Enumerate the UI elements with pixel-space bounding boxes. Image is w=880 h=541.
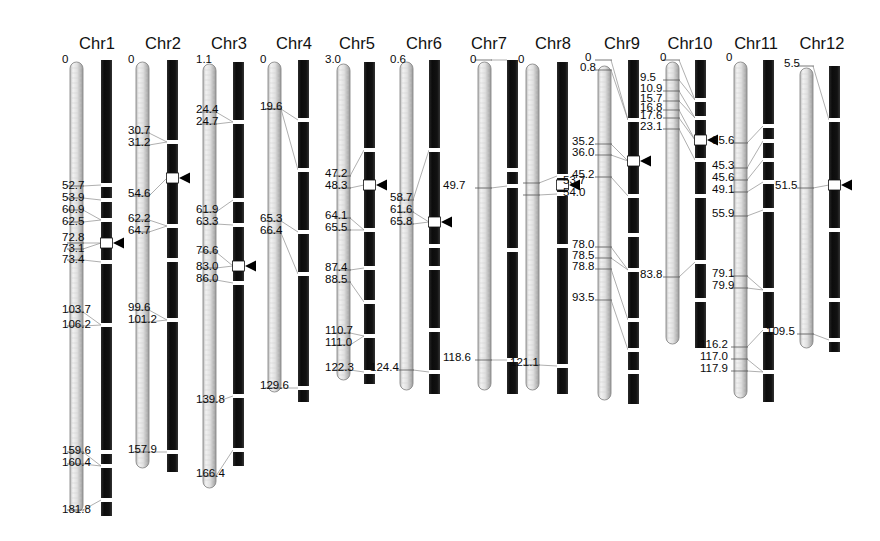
chromosome-band: [101, 198, 112, 202]
chromosome-band: [829, 298, 840, 302]
position-label: 23.1: [640, 121, 662, 133]
chromosome-band: [364, 148, 375, 152]
locus-connector-line: [539, 365, 557, 366]
locus-connector-line: [216, 112, 233, 122]
chromosome-band: [233, 394, 244, 398]
position-label: 93.5: [572, 292, 594, 304]
chromosome-title-chr11: Chr11: [734, 34, 778, 53]
chromosome-band: [507, 248, 518, 252]
chromosome-band: [429, 244, 440, 248]
chromosome-band: [101, 498, 112, 502]
position-label: 99.6: [128, 302, 150, 314]
locus-connector-line: [611, 269, 628, 320]
position-label: 117.9: [700, 363, 728, 375]
position-label: 118.6: [443, 352, 471, 364]
centromere-marker-icon: [841, 180, 852, 191]
chromosome-band: [557, 244, 568, 248]
chromosome-band: [364, 228, 375, 232]
chromosome-title-chr2: Chr2: [145, 34, 181, 53]
position-label: 0: [660, 52, 666, 64]
position-label: 55.9: [712, 208, 734, 220]
position-label: 66.4: [260, 225, 282, 237]
position-label: 64.7: [128, 225, 150, 237]
physical-chromosome-bar: [829, 66, 840, 352]
position-label: 65.3: [260, 213, 282, 225]
position-label: 78.8: [572, 261, 594, 273]
genetic-linkage-bar: [734, 62, 747, 398]
position-label: 61.6: [390, 204, 412, 216]
chromosome-map-svg: [0, 0, 880, 541]
position-label: 62.2: [128, 213, 150, 225]
chromosome-band: [763, 139, 774, 143]
position-label: 79.9: [712, 280, 734, 292]
position-label: 83.8: [640, 269, 662, 281]
locus-connector-line: [679, 262, 695, 277]
position-label: 117.0: [700, 351, 728, 363]
chromosome-band: [298, 272, 309, 276]
chromosome-band: [298, 118, 309, 122]
position-label: 111.0: [325, 337, 352, 349]
chromosome-band: [101, 450, 112, 454]
position-label: 30.7: [128, 125, 150, 137]
locus-connector-line: [539, 194, 557, 195]
centromere-band: [429, 217, 441, 227]
chromosome-band: [101, 260, 112, 264]
chromosome-band: [557, 364, 568, 368]
chromosome-band: [364, 334, 375, 338]
locus-connector-line: [747, 371, 763, 372]
position-label: 139.8: [196, 394, 225, 406]
centromere-band: [364, 180, 376, 190]
position-label: 5.5: [784, 58, 800, 70]
chromosome-band: [298, 386, 309, 390]
locus-connector-line: [149, 226, 167, 232]
chromosome-band: [763, 208, 774, 212]
centromere-band: [101, 238, 113, 248]
position-label: 24.4: [196, 104, 218, 116]
chromosome-band: [628, 318, 639, 322]
position-label: 116.2: [700, 339, 728, 351]
position-label: 166.4: [196, 468, 225, 480]
chromosome-band: [507, 168, 518, 172]
position-label: 52.7: [62, 180, 84, 192]
centromere-marker-icon: [376, 180, 387, 191]
position-label: 0: [62, 54, 68, 66]
position-label: 0.8: [580, 62, 596, 74]
centromere-marker-icon: [640, 156, 651, 167]
chromosome-title-chr10: Chr10: [668, 34, 713, 53]
chromosome-band: [429, 266, 440, 270]
position-label: 35.6: [712, 135, 734, 147]
locus-connector-line: [413, 370, 429, 372]
locus-connector-line: [679, 60, 695, 100]
position-label: 48.3: [325, 180, 347, 192]
chromosome-band: [695, 298, 706, 302]
locus-connector-line: [149, 178, 167, 196]
chromosome-band: [364, 266, 375, 270]
figure-canvas: Chr1052.753.960.962.572.873.173.4103.710…: [0, 0, 880, 541]
chromosome-band: [233, 223, 244, 227]
position-label: 159.6: [62, 445, 91, 457]
chromosome-title-chr5: Chr5: [339, 34, 375, 53]
chromosome-title-chr9: Chr9: [604, 34, 640, 53]
chromosome-band: [628, 194, 639, 198]
chromosome-band: [167, 140, 178, 144]
chromosome-band: [507, 184, 518, 188]
locus-connector-line: [747, 359, 763, 372]
physical-chromosome-bar: [557, 62, 568, 394]
locus-connector-line: [611, 60, 628, 120]
position-label: 124.4: [370, 362, 399, 374]
locus-connector-line: [611, 70, 628, 120]
chromosome-band: [695, 116, 706, 120]
centromere-marker-icon: [113, 238, 124, 249]
chromosome-band: [628, 118, 639, 122]
locus-connector-line: [491, 186, 507, 188]
chromosome-band: [829, 118, 840, 122]
position-label: 58.7: [390, 192, 412, 204]
genetic-linkage-bar: [478, 62, 491, 390]
genetic-linkage-bar: [800, 68, 813, 348]
position-label: 121.1: [510, 357, 539, 369]
chromosome-title-chr8: Chr8: [535, 34, 571, 53]
position-label: 49.1: [712, 184, 734, 196]
chromosome-band: [233, 198, 244, 202]
position-label: 1.1: [196, 54, 212, 66]
chromosome-band: [167, 450, 178, 454]
